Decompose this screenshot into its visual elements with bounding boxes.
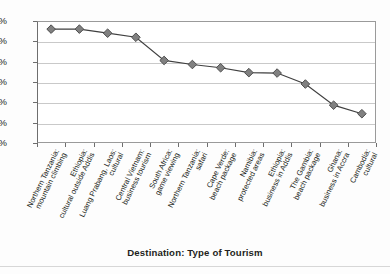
y-axis-tick-label: 30% — [0, 16, 7, 26]
y-axis-tick-label: 15% — [0, 77, 7, 87]
data-point-marker — [75, 25, 84, 34]
x-axis-tick-mark — [348, 143, 349, 147]
data-point-marker — [216, 63, 225, 72]
x-axis-tick-mark — [376, 143, 377, 147]
x-axis-tick-mark — [178, 143, 179, 147]
y-axis-tick-label: 10% — [0, 97, 7, 107]
x-axis-tick-mark — [207, 143, 208, 147]
data-point-marker — [358, 109, 367, 118]
data-point-marker — [329, 101, 338, 110]
data-point-marker — [188, 60, 197, 69]
x-axis-title: Destination: Type of Tourism — [0, 247, 390, 258]
x-axis-category-label: Cambodia:cultural — [349, 148, 380, 188]
x-axis-tick-mark — [65, 143, 66, 147]
data-series — [37, 21, 376, 143]
x-axis-tick-mark — [122, 143, 123, 147]
data-point-marker — [245, 68, 254, 77]
x-axis-tick-mark — [37, 143, 38, 147]
series-line — [51, 29, 362, 114]
chart-figure: 0%5%10%15%20%25%30% Northern Tanzania:mo… — [0, 0, 390, 274]
y-axis-tick-label: 25% — [0, 36, 7, 46]
y-axis-tick-label: 0% — [0, 138, 7, 148]
footer-rule — [0, 266, 390, 267]
x-axis-tick-mark — [94, 143, 95, 147]
x-axis-tick-mark — [235, 143, 236, 147]
data-point-marker — [103, 29, 112, 38]
data-point-marker — [273, 69, 282, 78]
x-axis-tick-mark — [320, 143, 321, 147]
y-axis-tick-label: 20% — [0, 57, 7, 67]
x-axis-tick-mark — [291, 143, 292, 147]
data-point-marker — [47, 25, 56, 34]
x-axis-category-labels: Northern Tanzania:mountain climbingEthio… — [0, 148, 390, 240]
data-point-marker — [301, 80, 310, 89]
x-axis-tick-mark — [150, 143, 151, 147]
x-axis-tick-mark — [263, 143, 264, 147]
y-axis-tick-label: 5% — [0, 118, 7, 128]
